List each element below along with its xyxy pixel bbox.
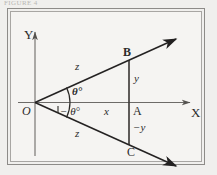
point-b-label: B (123, 45, 131, 60)
figure-container: FIGURE 4 Y X (0, 0, 217, 175)
label-y-lower: −y (133, 121, 145, 133)
point-c-label: C (127, 145, 135, 160)
label-x-horizontal: x (104, 105, 109, 117)
x-axis-label: X (191, 105, 200, 121)
angle-arc-upper (67, 88, 71, 103)
y-axis-label: Y (24, 27, 33, 43)
point-a-label: A (133, 104, 142, 119)
label-z-upper: z (75, 60, 79, 72)
label-y-upper: y (134, 72, 139, 84)
upper-ray (35, 39, 176, 103)
label-z-lower: z (75, 127, 79, 139)
angle-label-upper: θ° (72, 85, 82, 97)
angle-label-lower: − θ° (60, 105, 80, 117)
origin-label: O (22, 104, 31, 119)
